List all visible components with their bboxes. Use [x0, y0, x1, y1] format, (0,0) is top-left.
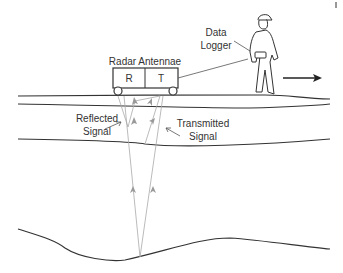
subsurface-layer-1: [18, 104, 330, 108]
wheel-right: [169, 87, 177, 95]
radar-antennae-label: Radar Antennae: [109, 56, 182, 67]
deep-reflector: [18, 229, 330, 261]
data-logger-label-2: Logger: [200, 40, 232, 51]
gpr-diagram: R T Data Logger Radar Antennae Reflected…: [0, 0, 343, 273]
signal-paths: [118, 96, 163, 257]
transmitter-label: T: [158, 73, 164, 84]
data-logger-leader: [234, 41, 250, 51]
subsurface-layer-2: [18, 139, 330, 146]
reflected-label-1: Reflected: [76, 113, 118, 124]
receiver-label: R: [125, 73, 132, 84]
transmitted-label-2: Signal: [189, 131, 217, 142]
reflected-label-2: Signal: [83, 126, 111, 137]
direction-arrow-icon: [283, 74, 322, 82]
transmitted-pointer: [166, 128, 180, 136]
transmitted-label-1: Transmitted: [177, 118, 229, 129]
data-logger-label-1: Data: [205, 27, 227, 38]
wheel-left: [114, 87, 122, 95]
radar-antenna-unit: R T: [113, 68, 178, 95]
operator-figure: [250, 15, 278, 94]
cable: [178, 59, 248, 78]
ground-surface: [18, 95, 330, 99]
